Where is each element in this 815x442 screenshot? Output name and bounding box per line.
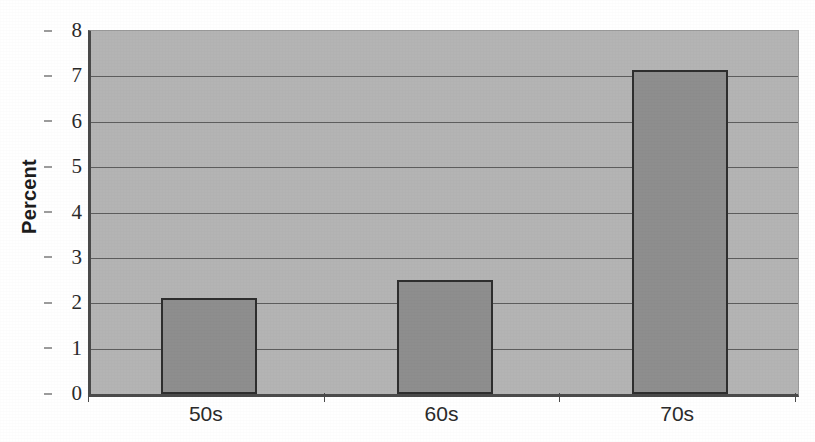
x-axis-tick-mark [88,393,89,402]
y-axis-tick-label: 1 [52,337,82,358]
x-axis-tick-label: 60s [425,402,459,426]
bar-chart: Percent 012345678 50s60s70s [0,0,815,442]
y-axis-tick-mark [44,212,52,213]
y-axis-tick-label: 2 [52,292,82,313]
y-axis-tick-label: 8 [52,20,82,41]
x-axis-tick-label: 70s [660,402,694,426]
plot-area [88,30,799,397]
y-axis-tick-label: 7 [52,65,82,86]
bar [397,280,493,394]
y-axis-title: Percent [6,0,52,393]
y-axis-tick-mark [44,257,52,258]
bar [632,70,728,394]
y-axis-tick-mark [44,393,52,394]
x-axis-tick-label: 50s [189,402,223,426]
y-axis-tick-mark [44,302,52,303]
x-axis-tick-mark [795,393,796,402]
y-axis-tick-label: 0 [52,383,82,404]
y-axis-tick-labels: 012345678 [52,0,82,442]
y-axis-tick-mark [44,348,52,349]
y-axis-tick-label: 5 [52,156,82,177]
bar [161,298,257,394]
y-axis-tick-label: 6 [52,110,82,131]
y-axis-tick-label: 4 [52,201,82,222]
y-axis-title-label: Percent [18,159,41,234]
y-axis-tick-mark [44,166,52,167]
y-axis-tick-mark [44,121,52,122]
y-axis-tick-mark [44,30,52,31]
x-axis-tick-mark [324,393,325,402]
x-axis-tick-labels: 50s60s70s [88,402,798,442]
x-axis-tick-mark [559,393,560,402]
y-axis-tick-mark [44,75,52,76]
y-axis-tick-label: 3 [52,246,82,267]
plot-inner [91,31,798,394]
